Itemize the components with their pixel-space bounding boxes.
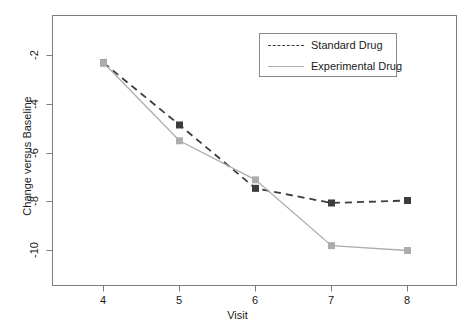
x-tick-label: 8: [404, 294, 410, 306]
data-point-marker: [328, 242, 335, 249]
series-standard-drug: [100, 59, 411, 206]
data-point-marker: [252, 185, 259, 192]
line-chart: -2 -4 -6 -8 -10 4 5 6 7 8 Visit Change v…: [0, 0, 475, 330]
y-axis-ticks: [47, 56, 53, 251]
y-tick-label: -10: [28, 234, 40, 266]
solid-line-swatch-icon: [268, 60, 304, 72]
data-point-marker: [176, 137, 183, 144]
x-axis-ticks: [104, 286, 408, 292]
data-point-marker: [100, 59, 107, 66]
x-tick-label: 7: [328, 294, 334, 306]
y-tick-label: -2: [28, 43, 40, 67]
series-line: [104, 63, 408, 251]
y-axis-title: Change versus Baseline: [21, 76, 33, 236]
data-point-marker: [404, 197, 411, 204]
x-tick-label: 6: [252, 294, 258, 306]
x-axis-title: Visit: [0, 309, 475, 321]
plot-area: [0, 0, 475, 330]
legend-label-experimental-drug: Experimental Drug: [311, 60, 402, 72]
x-tick-label: 4: [100, 294, 106, 306]
data-point-marker: [176, 121, 183, 128]
data-point-marker: [252, 176, 259, 183]
legend-item-standard-drug: Standard Drug: [260, 34, 396, 56]
data-point-marker: [328, 199, 335, 206]
data-point-marker: [404, 247, 411, 254]
x-tick-label: 5: [176, 294, 182, 306]
series-experimental-drug: [100, 59, 411, 254]
dashed-line-swatch-icon: [268, 39, 304, 51]
legend-item-experimental-drug: Experimental Drug: [260, 55, 396, 77]
series-layer: [100, 59, 411, 254]
legend-label-standard-drug: Standard Drug: [311, 39, 383, 51]
legend: Standard Drug Experimental Drug: [259, 33, 397, 77]
